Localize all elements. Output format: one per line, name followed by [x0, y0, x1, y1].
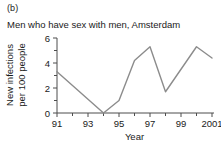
y-axis: 0246 [45, 33, 57, 119]
x-tick-label: 97 [145, 118, 156, 129]
x-axis-ticks [57, 113, 212, 117]
y-tick-label: 4 [45, 58, 50, 69]
y-tick-label: 6 [45, 33, 50, 44]
x-tick-label: 99 [176, 118, 187, 129]
data-series-line [57, 47, 212, 113]
x-axis-title: Year [125, 131, 144, 142]
x-tick-label: 91 [52, 118, 63, 129]
x-tick-label: 95 [114, 118, 125, 129]
y-axis-tick-labels: 0246 [45, 33, 50, 119]
x-tick-label: 93 [83, 118, 94, 129]
y-axis-ticks [53, 38, 57, 113]
x-tick-label: 2001 [201, 118, 221, 129]
x-axis: 91939597992001 [52, 113, 221, 129]
y-tick-label: 2 [45, 83, 50, 94]
y-tick-label: 0 [45, 108, 50, 119]
chart-plot-area: 0246 91939597992001 Year [0, 0, 221, 145]
x-axis-tick-labels: 91939597992001 [52, 118, 221, 129]
chart-svg: 0246 91939597992001 Year [0, 0, 221, 145]
